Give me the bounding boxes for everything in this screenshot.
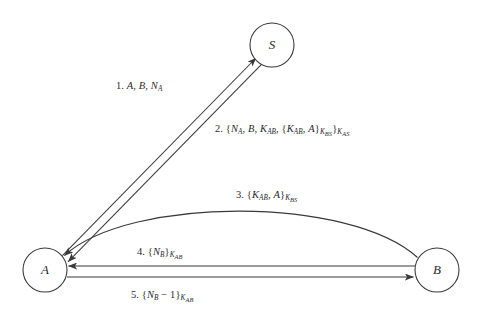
- subscript-kbs: KBS: [285, 194, 297, 202]
- symbol-na: N: [231, 123, 238, 134]
- comma: ,: [276, 123, 279, 134]
- edge-message-3: [65, 211, 418, 257]
- node-a-label: A: [40, 262, 49, 277]
- subscript-kab: KAB: [181, 294, 194, 302]
- message-1-label: 1. A, B, NA: [116, 81, 162, 92]
- subscript-kab: KAB: [170, 251, 183, 259]
- protocol-diagram: S A B 1. A, B, NA 2. {NA, B, KAB, {KAB, …: [0, 0, 482, 325]
- symbol-na-sub: A: [238, 128, 243, 136]
- symbol-kab-sub: AB: [185, 296, 193, 303]
- symbol-k: K: [287, 123, 294, 134]
- message-5-number: 5.: [131, 289, 139, 300]
- symbol-na-sub: A: [158, 85, 163, 93]
- comma: ,: [268, 189, 271, 200]
- minus-one: − 1: [161, 289, 175, 300]
- symbol-kbs-sub: BS: [290, 196, 297, 203]
- symbol-kab-sub: AB: [294, 128, 303, 136]
- symbol-nb-sub: B: [154, 294, 159, 302]
- symbol-na: N: [151, 80, 158, 91]
- message-3-label: 3. {KAB, A}KBS: [236, 190, 297, 201]
- message-5-label: 5. {NB − 1}KAB: [131, 290, 193, 301]
- symbol-k: K: [170, 251, 175, 259]
- node-s-label: S: [269, 37, 276, 52]
- subscript-kbs: KBS: [320, 128, 332, 136]
- diagram-canvas: S A B: [0, 0, 482, 325]
- comma: ,: [133, 80, 136, 91]
- symbol-nb: N: [147, 289, 154, 300]
- edge-message-2: [68, 64, 262, 262]
- node-b-label: B: [433, 262, 441, 277]
- message-2-label: 2. {NA, B, KAB, {KAB, A}KBS}KAS: [215, 124, 350, 135]
- message-1-number: 1.: [116, 80, 124, 91]
- symbol-kbs-sub: BS: [325, 130, 332, 137]
- subscript-kas: KAS: [337, 128, 349, 136]
- message-2-number: 2.: [215, 123, 223, 134]
- symbol-kab-sub: AB: [175, 253, 183, 260]
- message-3-number: 3.: [236, 189, 244, 200]
- comma: ,: [145, 80, 148, 91]
- symbol-nb-sub: B: [160, 251, 165, 259]
- symbol-kab-sub: AB: [259, 194, 268, 202]
- symbol-k: K: [252, 189, 259, 200]
- symbol-kab-sub: AB: [267, 128, 276, 136]
- comma: ,: [303, 123, 306, 134]
- message-4-label: 4. {NB}KAB: [137, 247, 183, 258]
- message-4-number: 4.: [137, 246, 145, 257]
- comma: ,: [255, 123, 258, 134]
- symbol-kas-sub: AS: [342, 130, 349, 137]
- symbol-nb: N: [153, 246, 160, 257]
